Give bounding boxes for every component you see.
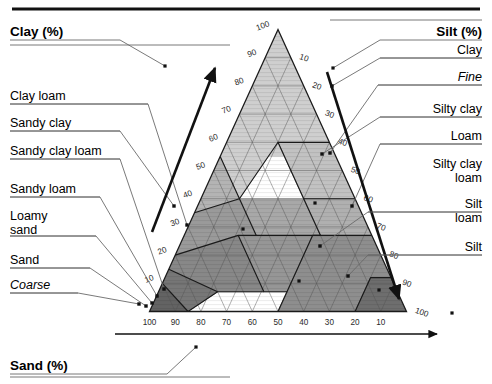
sand-tick-label: 60 xyxy=(248,318,258,327)
sand-tick-label: 80 xyxy=(196,318,206,327)
sand-tick-label: 50 xyxy=(273,318,283,327)
left-class-label: Sand xyxy=(10,253,39,267)
callout-dot xyxy=(155,294,158,297)
callout-dot xyxy=(331,66,334,69)
callout-dot xyxy=(328,151,331,154)
callout-dot xyxy=(377,288,380,291)
left-class-label: Sandy clay loam xyxy=(10,144,102,158)
callout-dot xyxy=(450,311,453,314)
clay-axis-title: Clay (%) xyxy=(10,24,63,39)
callout-dot xyxy=(137,302,140,305)
silt-axis-title: Silt (%) xyxy=(436,24,482,39)
right-class-label: Clay xyxy=(457,43,483,57)
left-class-label: Sandy loam xyxy=(10,182,76,196)
sand-tick-label: 90 xyxy=(171,318,181,327)
callout-dot xyxy=(241,227,244,230)
left-class-label: Clay loam xyxy=(10,89,66,103)
soil-texture-triangle-figure: 1009080706050403020101009080706050403020… xyxy=(0,0,492,384)
callout-dot xyxy=(346,274,349,277)
right-class-label: Silty clay xyxy=(433,102,483,116)
callout-dot xyxy=(144,304,147,307)
right-class-label: loam xyxy=(455,211,482,225)
right-class-label: Fine xyxy=(458,70,482,84)
figure-root: 1009080706050403020101009080706050403020… xyxy=(0,0,492,384)
sand-tick-label: 30 xyxy=(325,318,335,327)
sand-tick-label: 20 xyxy=(351,318,361,327)
left-class-label: Coarse xyxy=(10,278,50,292)
callout-dot xyxy=(150,301,153,304)
callout-dot xyxy=(318,244,321,247)
callout-dot xyxy=(163,64,166,67)
sand-tick-label: 10 xyxy=(376,318,386,327)
right-class-label: Silt xyxy=(465,240,483,254)
callout-dot xyxy=(162,287,165,290)
sand-tick-label: 40 xyxy=(299,318,309,327)
right-class-label: Loam xyxy=(451,129,482,143)
left-class-label: sand xyxy=(10,223,37,237)
right-class-label: loam xyxy=(455,171,482,185)
callout-dot xyxy=(320,152,323,155)
sand-axis-title: Sand (%) xyxy=(10,358,68,373)
right-class-label: Silt xyxy=(465,197,483,211)
callout-dot xyxy=(313,201,316,204)
callout-dot xyxy=(185,223,188,226)
callout-dot xyxy=(194,345,197,348)
left-class-label: Loamy xyxy=(10,209,48,223)
left-class-label: Sandy clay xyxy=(10,116,72,130)
sand-tick-label: 100 xyxy=(143,318,157,327)
callout-dot xyxy=(297,279,300,282)
sand-tick-label: 70 xyxy=(222,318,232,327)
callout-dot xyxy=(350,204,353,207)
callout-dot xyxy=(172,204,175,207)
right-class-label: Silty clay xyxy=(433,157,483,171)
